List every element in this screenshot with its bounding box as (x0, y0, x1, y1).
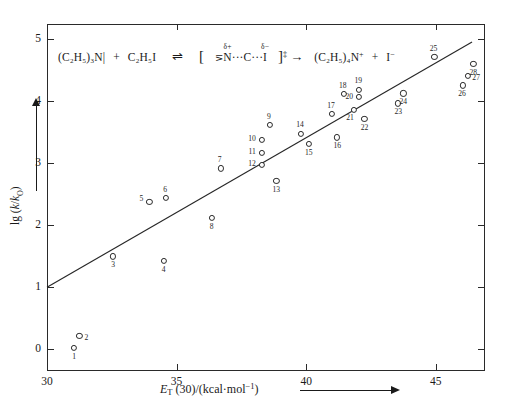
data-point-label-1: 1 (72, 353, 76, 361)
data-point-label-19: 19 (355, 77, 363, 85)
y-axis-direction-arrow (36, 105, 37, 191)
figure-caption (46, 402, 496, 414)
x-tick-top-30 (47, 24, 48, 30)
y-axis-label: lg (k/kO) (9, 171, 24, 241)
y-tick-2 (47, 225, 54, 226)
x-axis-direction-arrow (300, 390, 392, 391)
equation-reactant-1: (C₂H₅)₃N| (58, 51, 105, 63)
data-point-label-5: 5 (139, 195, 143, 203)
x-tick-label-45: 45 (421, 376, 451, 388)
figure-root: 012345 30354045 lg (k/kO) ET (30)/(kcal·… (0, 0, 505, 414)
equation-ts-i-atom: I (263, 51, 267, 63)
data-point-label-2: 2 (84, 334, 88, 342)
data-point-label-3: 3 (111, 262, 115, 270)
equation-ts-nitrogen: δ+N (223, 51, 231, 63)
equation-plus-1: + (113, 51, 120, 63)
x-tick-40 (306, 364, 307, 371)
data-point-label-17: 17 (327, 102, 335, 110)
equation-dagger-icon: ‡ (283, 50, 287, 59)
y-tick-5 (47, 39, 54, 40)
data-point-label-16: 16 (333, 143, 341, 151)
equation-plus-2: + (372, 51, 379, 63)
y-tick-right-0 (478, 349, 485, 350)
x-tick-top-40 (306, 24, 307, 30)
y-tick-right-2 (478, 225, 485, 226)
equation-ts-dots-2: ··· (251, 51, 263, 63)
data-point-label-4: 4 (162, 266, 166, 274)
data-point-label-7: 7 (218, 157, 222, 165)
y-tick-right-3 (478, 163, 485, 164)
equation-product-1-charge: + (359, 50, 364, 59)
y-tick-label-0: 0 (19, 343, 41, 355)
data-point-label-23: 23 (394, 109, 402, 117)
equation-ts-iodine: δ−I (263, 51, 267, 63)
y-tick-4 (47, 101, 54, 102)
data-point-label-12: 12 (248, 160, 256, 168)
plot-frame (47, 24, 485, 371)
equation-ts-n-prefix: ⋝ (215, 52, 223, 63)
equation-product-1: (C₂H₅)₄N (314, 51, 359, 63)
y-tick-label-5: 5 (19, 33, 41, 45)
data-point-label-6: 6 (163, 186, 167, 194)
data-point-label-13: 13 (273, 186, 281, 194)
y-tick-right-4 (478, 101, 485, 102)
data-point-label-8: 8 (210, 223, 214, 231)
equation-product-2-charge: − (390, 50, 395, 59)
y-tick-1 (47, 287, 54, 288)
data-point-label-22: 22 (361, 124, 369, 132)
equilibrium-arrow-icon: ⇌ (172, 49, 183, 64)
equation-ts-dots-1: ··· (232, 51, 244, 63)
y-tick-right-1 (478, 287, 485, 288)
data-point-label-14: 14 (296, 121, 304, 129)
x-tick-45 (436, 364, 437, 371)
data-point-label-9: 9 (267, 113, 271, 121)
x-tick-label-30: 30 (32, 376, 62, 388)
data-point-label-10: 10 (248, 135, 256, 143)
data-point-label-20: 20 (346, 93, 354, 101)
y-tick-label-3: 3 (19, 157, 41, 169)
x-axis-label: ET (30)/(kcal·mol−1) (160, 381, 259, 397)
data-point-label-21: 21 (346, 114, 354, 122)
x-tick-top-35 (177, 24, 178, 30)
x-tick-35 (177, 364, 178, 371)
y-tick-right-5 (478, 39, 485, 40)
x-tick-30 (47, 364, 48, 371)
equation-ts-n-atom: N (223, 51, 231, 63)
data-point-label-25: 25 (430, 45, 438, 53)
equation-reactant-2: C₂H₅I (128, 51, 156, 63)
y-tick-0 (47, 349, 54, 350)
equation-ts-n-partial-charge: δ+ (224, 42, 232, 51)
equation-yield-arrow-icon: → (290, 49, 303, 64)
data-point-label-28: 28 (470, 69, 478, 77)
data-point-label-24: 24 (400, 99, 408, 107)
data-point-label-11: 11 (248, 148, 255, 156)
x-tick-top-45 (436, 24, 437, 30)
y-tick-label-1: 1 (19, 281, 41, 293)
y-tick-3 (47, 163, 54, 164)
x-tick-label-40: 40 (291, 376, 321, 388)
data-point-label-26: 26 (458, 91, 466, 99)
data-point-label-18: 18 (339, 82, 347, 90)
reaction-equation: (C₂H₅)₃N| + C₂H₅I ⇌ [ ⋝δ+N···C···δ−I ]‡ … (58, 48, 395, 65)
data-point-label-15: 15 (305, 149, 313, 157)
equation-ts-i-partial-charge: δ− (261, 42, 269, 51)
equation-bracket-open: [ (199, 48, 204, 64)
